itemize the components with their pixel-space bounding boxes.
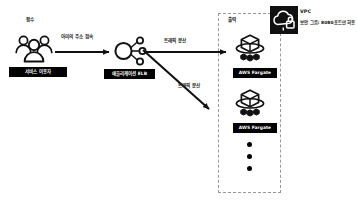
edge-users-to-elb <box>55 44 117 60</box>
ellipsis-dot <box>247 154 252 159</box>
vpc-group-label: 출력 <box>228 17 236 22</box>
node-service-users[interactable] <box>14 33 54 66</box>
aws-fargate-2-label: AWS Fargate <box>233 123 277 133</box>
edge-label-elb-to-fargate-1: 트래픽 분산 <box>164 38 186 43</box>
ellipsis-dot <box>247 166 252 171</box>
edge-label-elb-to-fargate-2: 트래픽 분산 <box>178 83 200 88</box>
vpc-badge-subtitle: 보안 그룹: 8080포트만 허용 <box>300 19 355 25</box>
aws-fargate-icon <box>233 88 267 118</box>
service-users-label: 서비스 이용자 <box>9 67 67 77</box>
edge-label-users-to-elb: 아미의 주소 접속 <box>61 34 93 39</box>
architecture-diagram-canvas: 출력 함수 서비스 이용자 아미의 주소 접속 <box>0 0 357 207</box>
function-label: 함수 <box>26 17 34 22</box>
aws-fargate-1-label: AWS Fargate <box>233 68 277 78</box>
vpc-badge-title: VPC <box>300 9 311 14</box>
node-aws-fargate-1[interactable] <box>233 33 267 63</box>
vpc-badge[interactable] <box>270 6 298 34</box>
users-group-icon <box>14 33 54 66</box>
node-application-elb[interactable] <box>113 36 146 66</box>
node-aws-fargate-2[interactable] <box>233 88 267 118</box>
aws-fargate-icon <box>233 33 267 63</box>
application-load-balancer-icon <box>113 36 146 66</box>
vpc-cloud-lock-icon <box>270 6 298 34</box>
ellipsis-dot <box>247 142 252 147</box>
more-instances-ellipsis <box>240 140 264 180</box>
